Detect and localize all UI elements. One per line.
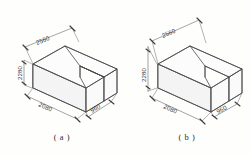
dimension-label-2560-b: 2560	[161, 27, 177, 39]
dimension-label-2080-b: 2080	[163, 103, 179, 115]
figure-a: 2560 2280 2080 960	[16, 26, 117, 142]
dimension-2280-a: 2280	[16, 60, 32, 88]
dimension-label-2280-b: 2280	[140, 67, 147, 82]
figure-caption-a: ( a )	[54, 133, 70, 142]
dimension-label-2080-a: 2080	[38, 101, 54, 113]
dimension-label-2280-a: 2280	[16, 65, 23, 80]
figure-b: 2560 2280 2080 960	[140, 18, 242, 142]
dimension-label-2560-a: 2560	[35, 34, 51, 46]
dimension-2280-b: 2280	[140, 46, 157, 92]
technical-drawing-sheet: 2560 2280 2080 960	[0, 0, 250, 157]
figure-caption-b: ( b )	[179, 133, 196, 142]
isometric-block-b	[158, 46, 242, 112]
